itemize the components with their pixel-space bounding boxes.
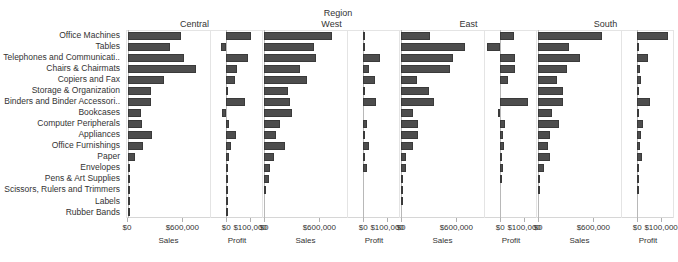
bar[interactable] bbox=[363, 120, 367, 128]
bar[interactable] bbox=[264, 76, 307, 84]
bar[interactable] bbox=[637, 54, 647, 62]
bar[interactable] bbox=[128, 142, 143, 150]
bar[interactable] bbox=[401, 131, 418, 139]
bar[interactable] bbox=[128, 131, 152, 139]
bar[interactable] bbox=[401, 153, 406, 161]
bar[interactable] bbox=[538, 131, 550, 139]
bar[interactable] bbox=[226, 87, 228, 95]
bar[interactable] bbox=[538, 175, 540, 183]
bar[interactable] bbox=[637, 98, 649, 106]
bar[interactable] bbox=[538, 54, 580, 62]
bar[interactable] bbox=[401, 164, 406, 172]
bar[interactable] bbox=[264, 153, 274, 161]
bar[interactable] bbox=[363, 153, 365, 161]
bar[interactable] bbox=[637, 142, 640, 150]
bar[interactable] bbox=[401, 197, 403, 205]
bar[interactable] bbox=[128, 175, 130, 183]
bar[interactable] bbox=[500, 131, 503, 139]
bar[interactable] bbox=[401, 32, 430, 40]
bar[interactable] bbox=[538, 32, 602, 40]
bar[interactable] bbox=[637, 109, 639, 117]
bar[interactable] bbox=[128, 98, 151, 106]
bar[interactable] bbox=[226, 120, 229, 128]
bar[interactable] bbox=[264, 175, 269, 183]
bar[interactable] bbox=[363, 65, 369, 73]
bar[interactable] bbox=[637, 153, 641, 161]
bar[interactable] bbox=[401, 65, 450, 73]
bar[interactable] bbox=[128, 208, 130, 216]
bar[interactable] bbox=[637, 186, 639, 194]
bar[interactable] bbox=[500, 32, 513, 40]
bar[interactable] bbox=[363, 164, 366, 172]
bar[interactable] bbox=[222, 109, 226, 117]
bar[interactable] bbox=[128, 164, 130, 172]
bar[interactable] bbox=[500, 120, 505, 128]
bar[interactable] bbox=[538, 87, 563, 95]
bar[interactable] bbox=[500, 175, 502, 183]
bar[interactable] bbox=[226, 142, 231, 150]
bar[interactable] bbox=[637, 175, 639, 183]
bar[interactable] bbox=[363, 142, 368, 150]
bar[interactable] bbox=[363, 87, 365, 95]
bar[interactable] bbox=[637, 87, 639, 95]
bar[interactable] bbox=[538, 65, 567, 73]
bar[interactable] bbox=[538, 153, 550, 161]
bar[interactable] bbox=[264, 54, 316, 62]
bar[interactable] bbox=[637, 65, 640, 73]
bar[interactable] bbox=[538, 120, 559, 128]
bar[interactable] bbox=[500, 65, 514, 73]
bar[interactable] bbox=[264, 164, 270, 172]
bar[interactable] bbox=[264, 142, 285, 150]
bar[interactable] bbox=[538, 164, 544, 172]
bar[interactable] bbox=[264, 120, 280, 128]
bar[interactable] bbox=[637, 164, 639, 172]
bar[interactable] bbox=[363, 76, 375, 84]
bar[interactable] bbox=[128, 186, 130, 194]
bar[interactable] bbox=[500, 142, 504, 150]
bar[interactable] bbox=[401, 43, 465, 51]
bar[interactable] bbox=[637, 32, 668, 40]
bar[interactable] bbox=[264, 87, 288, 95]
bar[interactable] bbox=[128, 65, 196, 73]
bar[interactable] bbox=[128, 87, 151, 95]
bar[interactable] bbox=[226, 32, 251, 40]
bar[interactable] bbox=[401, 98, 434, 106]
bar[interactable] bbox=[538, 109, 552, 117]
bar[interactable] bbox=[264, 131, 276, 139]
bar[interactable] bbox=[538, 98, 563, 106]
bar[interactable] bbox=[128, 120, 142, 128]
bar[interactable] bbox=[401, 175, 403, 183]
bar[interactable] bbox=[500, 153, 502, 161]
bar[interactable] bbox=[128, 54, 184, 62]
bar[interactable] bbox=[226, 76, 235, 84]
bar[interactable] bbox=[401, 109, 413, 117]
bar[interactable] bbox=[500, 54, 515, 62]
bar[interactable] bbox=[538, 142, 548, 150]
bar[interactable] bbox=[226, 175, 228, 183]
bar[interactable] bbox=[226, 164, 228, 172]
bar[interactable] bbox=[363, 43, 365, 51]
bar[interactable] bbox=[264, 65, 300, 73]
bar[interactable] bbox=[401, 87, 429, 95]
bar[interactable] bbox=[226, 186, 228, 194]
bar[interactable] bbox=[221, 43, 226, 51]
bar[interactable] bbox=[128, 109, 141, 117]
bar[interactable] bbox=[637, 131, 640, 139]
bar[interactable] bbox=[363, 98, 376, 106]
bar[interactable] bbox=[500, 164, 502, 172]
bar[interactable] bbox=[498, 109, 501, 117]
bar[interactable] bbox=[264, 43, 314, 51]
bar[interactable] bbox=[401, 120, 418, 128]
bar[interactable] bbox=[500, 98, 527, 106]
bar[interactable] bbox=[487, 43, 500, 51]
bar[interactable] bbox=[401, 76, 417, 84]
bar[interactable] bbox=[226, 131, 236, 139]
bar[interactable] bbox=[264, 109, 292, 117]
bar[interactable] bbox=[226, 208, 228, 216]
bar[interactable] bbox=[401, 54, 453, 62]
bar[interactable] bbox=[538, 76, 557, 84]
bar[interactable] bbox=[363, 131, 365, 139]
bar[interactable] bbox=[128, 32, 181, 40]
bar[interactable] bbox=[363, 54, 380, 62]
bar[interactable] bbox=[226, 54, 248, 62]
